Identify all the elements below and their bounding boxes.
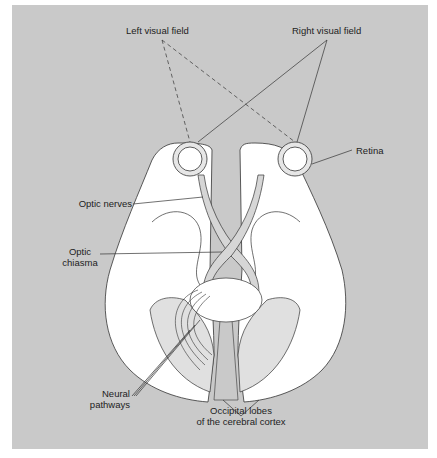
label-occipital-2: of the cerebral cortex (180, 416, 302, 427)
label-left-visual-field: Left visual field (126, 25, 189, 36)
label-occipital-1: Occipital lobes (180, 405, 302, 416)
label-retina: Retina (356, 145, 383, 156)
label-optic-nerves: Optic nerves (64, 198, 132, 209)
label-neural-pathways-2: pathways (80, 399, 130, 410)
label-optic-chiasma-1: Optic (60, 246, 100, 257)
label-right-visual-field: Right visual field (292, 25, 361, 36)
label-optic-chiasma-2: chiasma (60, 257, 100, 268)
label-neural-pathways-1: Neural (80, 388, 130, 399)
diagram-canvas (0, 0, 437, 458)
visual-pathway-diagram: Left visual field Right visual field Ret… (0, 0, 437, 458)
